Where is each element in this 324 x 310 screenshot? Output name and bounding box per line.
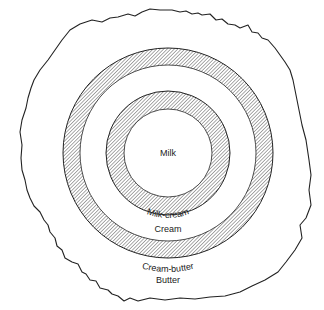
label-cream-butter: Cream-butter: [141, 261, 194, 274]
concentric-zone-diagram: Milk Milk-cream Cream Cream-butter Butte…: [0, 0, 324, 310]
label-butter: Butter: [156, 275, 180, 285]
label-cream: Cream: [154, 224, 181, 234]
label-milk: Milk: [160, 148, 176, 158]
